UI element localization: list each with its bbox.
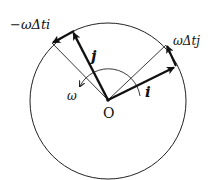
label-omega-dt-j: ωΔtj bbox=[173, 34, 200, 48]
rotated-j-line bbox=[52, 43, 108, 100]
vector-minus-omega-dt-i bbox=[53, 31, 74, 43]
vector-i bbox=[108, 68, 174, 101]
diagram-canvas: −ωΔti ωΔtj i j ω O bbox=[0, 0, 220, 180]
label-omega: ω bbox=[67, 89, 77, 103]
label-origin: O bbox=[103, 105, 114, 121]
rotated-i-line bbox=[108, 45, 166, 100]
vector-omega-dt-j bbox=[167, 46, 176, 66]
origin-point bbox=[106, 98, 110, 102]
label-minus-omega-dt-i: −ωΔti bbox=[10, 17, 50, 32]
vector-j bbox=[74, 33, 109, 100]
label-i: i bbox=[145, 83, 151, 101]
rotation-arc-omega bbox=[80, 69, 140, 96]
